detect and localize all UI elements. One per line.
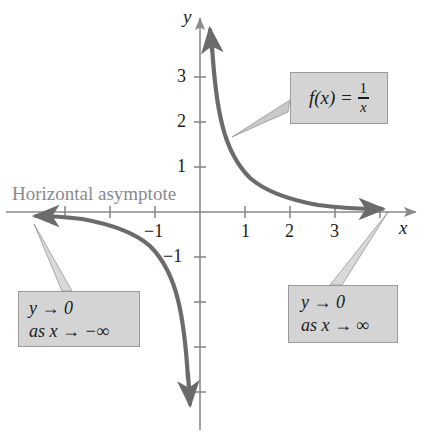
right-limit-callout-box: y → 0 as x → ∞	[288, 285, 398, 343]
function-prefix: f(x) =	[309, 87, 358, 108]
y-axis-label: y	[183, 6, 191, 28]
right-limit-line1: y → 0	[301, 291, 397, 314]
x-tick-label-1: 1	[241, 221, 250, 242]
curve-right-branch	[212, 46, 382, 209]
leader-function-box	[232, 100, 290, 137]
function-expression: f(x) = 1x	[309, 81, 369, 115]
x-axis-label: x	[399, 217, 407, 239]
right-limit-line2: as x → ∞	[301, 314, 397, 337]
y-tick-label-2: 2	[177, 111, 186, 132]
x-tick-label-3: 3	[330, 221, 339, 242]
fraction-denominator: x	[358, 100, 370, 115]
graph-canvas	[0, 0, 430, 440]
curve-left-branch-down-arrow	[188, 374, 190, 404]
x-tick-label-2: 2	[285, 221, 294, 242]
fraction-numerator: 1	[358, 81, 370, 96]
curve-right-branch-up-arrow	[210, 30, 212, 50]
left-limit-line1: y → 0	[29, 297, 139, 320]
y-tick-label-3: 3	[177, 66, 186, 87]
horizontal-asymptote-label: Horizontal asymptote	[12, 183, 176, 205]
y-tick-label-neg1: −1	[163, 246, 182, 267]
figure-container: y x −1 1 2 3 3 2 1 −1 Horizontal asympto…	[0, 0, 430, 440]
y-tick-label-1: 1	[177, 156, 186, 177]
left-limit-line2: as x → −∞	[29, 320, 139, 343]
function-callout-box: f(x) = 1x	[290, 72, 388, 124]
x-tick-label-neg1: −1	[144, 221, 163, 242]
left-limit-callout-box: y → 0 as x → −∞	[18, 291, 140, 347]
leader-left-box	[34, 224, 72, 291]
fraction-one-over-x: 1x	[358, 81, 370, 115]
